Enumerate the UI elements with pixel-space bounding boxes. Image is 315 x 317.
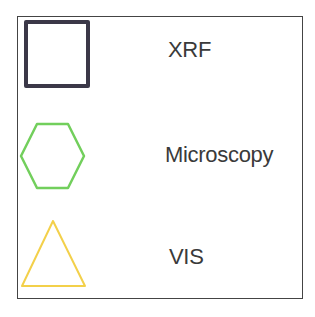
legend-label-xrf: XRF: [168, 39, 211, 61]
triangle-icon: [22, 221, 85, 286]
legend-label-microscopy: Microscopy: [165, 144, 273, 166]
hexagon-icon: [21, 124, 84, 188]
square-icon: [26, 22, 88, 86]
legend-label-vis: VIS: [169, 246, 204, 268]
